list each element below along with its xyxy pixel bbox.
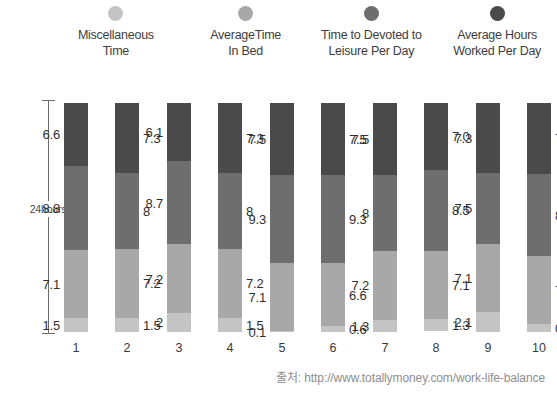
bar-column: 7.59.36.60.6 xyxy=(321,103,345,332)
bar-column: 7.48.67.20.8 xyxy=(527,103,551,332)
bar-segment: 1.5 xyxy=(115,318,139,332)
bar-segment: 7.2 xyxy=(115,249,139,318)
bar-segment-value: 1.5 xyxy=(43,317,60,332)
bar-segment: 8 xyxy=(218,173,242,249)
bar-segment-value: 0.1 xyxy=(249,324,266,339)
x-axis-tick-label: 5 xyxy=(270,341,294,355)
bar-segment: 1.3 xyxy=(373,320,397,332)
source-caption: 출처: http://www.totallymoney.com/work-lif… xyxy=(0,368,545,385)
bar-segment-value: 8 xyxy=(362,205,369,220)
x-axis-tick-label: 2 xyxy=(115,341,139,355)
bar-segment: 0.8 xyxy=(527,324,551,332)
bar-segment: 8.7 xyxy=(167,161,191,244)
bar-segment: 8.6 xyxy=(527,174,551,256)
bar-segment-value: 9.3 xyxy=(249,211,266,226)
bar-segment: 7.3 xyxy=(476,103,500,173)
bar-segment: 6.1 xyxy=(167,103,191,161)
bar-segment: 7.5 xyxy=(270,103,294,175)
bar-segment: 9.3 xyxy=(321,175,345,264)
bar-segment-value: 7.1 xyxy=(249,290,266,305)
y-axis-cap-top xyxy=(42,100,55,101)
bar-segment: 8 xyxy=(373,175,397,251)
x-axis-tick-label: 6 xyxy=(321,341,345,355)
bar-segment-value: 7.1 xyxy=(43,276,60,291)
bar-segment: 7.2 xyxy=(167,244,191,313)
bar-segment: 1.5 xyxy=(218,318,242,332)
bar-segment-value: 8.8 xyxy=(43,200,60,215)
bar-segment-value: 2 xyxy=(156,315,163,330)
bar-segment-value: 6.1 xyxy=(146,125,163,140)
bar-segment: 7.2 xyxy=(373,251,397,320)
bar-segment: 0.6 xyxy=(321,326,345,332)
x-axis-tick-label: 1 xyxy=(64,341,88,355)
bar-segment: 6.6 xyxy=(64,103,88,166)
bar-segment-value: 7.5 xyxy=(455,201,472,216)
bar-segment: 9.3 xyxy=(270,175,294,264)
bar-segment: 1.5 xyxy=(64,318,88,332)
bar-segment: 7.3 xyxy=(218,103,242,173)
bar-segment-value: 7.5 xyxy=(352,131,369,146)
bar-segment-value: 7.2 xyxy=(146,271,163,286)
bar-segment: 6.6 xyxy=(321,263,345,326)
y-axis-cap-bottom xyxy=(42,333,55,334)
bar-segment: 7.1 xyxy=(476,244,500,312)
bar-segment-value: 1.3 xyxy=(352,318,369,333)
bar-segment: 8 xyxy=(115,173,139,249)
bar-column: 7.587.21.3 xyxy=(373,103,397,332)
x-axis-tick-label: 10 xyxy=(527,341,551,355)
bar-segment: 7.1 xyxy=(270,263,294,331)
bar-segment: 7.2 xyxy=(218,249,242,318)
bar-segment: 7.5 xyxy=(373,103,397,175)
bar-segment-value: 2.1 xyxy=(455,314,472,329)
bar-column: 7.08.57.11.3 xyxy=(424,103,448,332)
bar-segment-value: 8.7 xyxy=(146,195,163,210)
bar-segment: 2 xyxy=(167,313,191,332)
bar-segment: 7.4 xyxy=(527,103,551,174)
bar-group: 6.68.87.11.57.387.21.56.18.77.227.387.21… xyxy=(64,103,551,332)
bar-segment: 7.5 xyxy=(321,103,345,175)
bar-segment: 1.3 xyxy=(424,319,448,331)
x-axis-tick-labels: 12345678910 xyxy=(64,341,551,359)
x-axis-tick-label: 9 xyxy=(476,341,500,355)
bar-segment: 7.1 xyxy=(424,251,448,319)
bar-column: 7.387.21.5 xyxy=(115,103,139,332)
bar-segment: 7.0 xyxy=(424,103,448,170)
bar-column: 7.387.21.5 xyxy=(218,103,242,332)
bar-segment-value: 7.2 xyxy=(246,276,263,291)
bar-column: 6.68.87.11.5 xyxy=(64,103,88,332)
bar-segment: 7.5 xyxy=(476,173,500,245)
bar-segment: 2.1 xyxy=(476,312,500,332)
bar-segment-value: 7.2 xyxy=(352,278,369,293)
bar-column: 6.18.77.22 xyxy=(167,103,191,332)
x-axis-tick-label: 3 xyxy=(167,341,191,355)
bar-segment-value: 7.3 xyxy=(455,130,472,145)
bar-segment-value: 7.1 xyxy=(455,271,472,286)
bar-segment: 7.2 xyxy=(527,256,551,325)
bar-segment: 8.8 xyxy=(64,166,88,250)
bar-segment: 0.1 xyxy=(270,331,294,332)
bar-column: 7.37.57.12.1 xyxy=(476,103,500,332)
bar-segment-value: 7.5 xyxy=(249,131,266,146)
bar-segment: 8.5 xyxy=(424,170,448,251)
x-axis-tick-label: 4 xyxy=(218,341,242,355)
stacked-bar-chart: 24hours 6.68.87.11.57.387.21.56.18.77.22… xyxy=(0,0,557,395)
bar-segment-value: 6.6 xyxy=(43,127,60,142)
bar-segment: 7.3 xyxy=(115,103,139,173)
x-axis-tick-label: 7 xyxy=(373,341,397,355)
bar-column: 7.59.37.10.1 xyxy=(270,103,294,332)
bar-segment: 7.1 xyxy=(64,250,88,318)
x-axis-tick-label: 8 xyxy=(424,341,448,355)
